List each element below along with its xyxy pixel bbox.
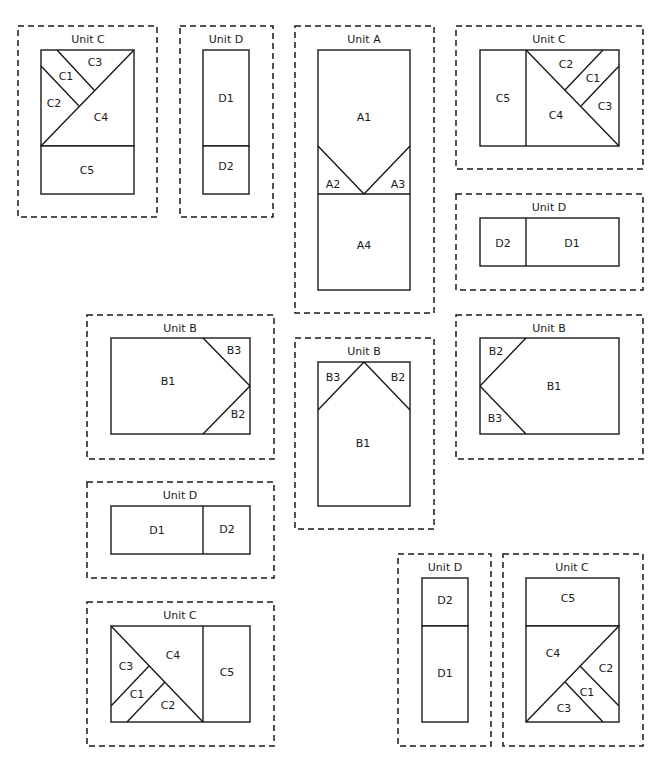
piece-label: C3: [557, 702, 572, 715]
unit-title: Unit D: [532, 201, 566, 214]
unit-d-bottom: Unit DD2D1: [398, 554, 491, 746]
piece-outline: [318, 50, 410, 290]
unit-title: Unit C: [532, 33, 566, 46]
unit-c-top-right: Unit CC5C2C1C3C4: [456, 26, 643, 169]
piece-label: B3: [326, 371, 341, 384]
unit-title: Unit B: [532, 322, 565, 335]
piece-label: A3: [391, 178, 406, 191]
unit-c-top-left: Unit CC3C1C2C4C5: [18, 26, 157, 217]
unit-title: Unit D: [163, 489, 197, 502]
piece-label: C1: [130, 688, 145, 701]
piece-label: B3: [227, 344, 242, 357]
unit-title: Unit C: [163, 609, 197, 622]
unit-title: Unit A: [347, 33, 381, 46]
piece-label: B1: [547, 380, 562, 393]
piece-label: B2: [231, 408, 246, 421]
piece-label: B2: [489, 345, 504, 358]
piece-label: C2: [161, 699, 176, 712]
unit-title: Unit B: [347, 345, 380, 358]
piece-label: C2: [599, 662, 614, 675]
piece-label: D1: [149, 524, 164, 537]
unit-b-right: Unit BB2B1B3: [456, 315, 643, 459]
piece-label: C5: [220, 666, 235, 679]
piece-label: A2: [326, 178, 341, 191]
piece-label: C1: [59, 70, 74, 83]
unit-d-right: Unit DD2D1: [456, 194, 643, 290]
unit-c-bottom-right: Unit CC5C4C2C1C3: [503, 554, 643, 746]
piece-label: D2: [219, 523, 234, 536]
piece-label: B1: [356, 437, 371, 450]
quilt-unit-diagram: Unit CC3C1C2C4C5Unit DD1D2Unit AA1A2A3A4…: [0, 0, 655, 759]
unit-d-top: Unit DD1D2: [180, 26, 273, 217]
piece-outline: [318, 362, 410, 506]
piece-label: C5: [496, 92, 511, 105]
unit-title: Unit D: [209, 33, 243, 46]
unit-b-left: Unit BB1B3B2: [87, 315, 274, 459]
piece-label: A1: [357, 111, 372, 124]
piece-label: C2: [47, 97, 62, 110]
piece-label: D1: [218, 92, 233, 105]
piece-label: C3: [88, 56, 103, 69]
piece-label: D2: [495, 237, 510, 250]
piece-label: C3: [598, 100, 613, 113]
unit-c-bottom-left: Unit CC4C5C3C1C2: [87, 602, 274, 746]
piece-label: D1: [437, 667, 452, 680]
piece-label: B2: [391, 371, 406, 384]
piece-label: C4: [546, 647, 561, 660]
piece-label: C3: [119, 660, 134, 673]
unit-b-center: Unit BB3B2B1: [295, 338, 434, 529]
unit-d-left: Unit DD1D2: [87, 482, 274, 578]
piece-label: D2: [218, 160, 233, 173]
unit-title: Unit B: [163, 322, 196, 335]
piece-label: B3: [488, 412, 503, 425]
unit-title: Unit C: [71, 33, 105, 46]
piece-label: C4: [166, 649, 181, 662]
piece-label: B1: [161, 375, 176, 388]
piece-label: C1: [580, 686, 595, 699]
unit-title: Unit C: [555, 561, 589, 574]
piece-label: C4: [549, 109, 564, 122]
piece-label: A4: [357, 239, 372, 252]
piece-label: C1: [586, 72, 601, 85]
piece-label: C4: [94, 111, 109, 124]
piece-label: D1: [564, 237, 579, 250]
unit-a: Unit AA1A2A3A4: [295, 26, 434, 313]
piece-label: C5: [80, 164, 95, 177]
piece-label: C5: [561, 592, 576, 605]
piece-label: D2: [437, 594, 452, 607]
unit-title: Unit D: [428, 561, 462, 574]
piece-label: C2: [559, 58, 574, 71]
